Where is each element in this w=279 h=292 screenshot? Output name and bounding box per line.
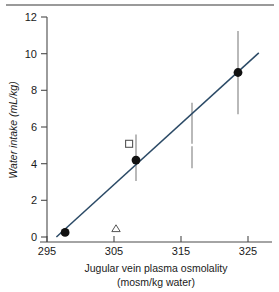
data-point-2	[132, 156, 141, 165]
y-tick-label-10: 10	[25, 48, 37, 60]
x-tick-label-295: 295	[38, 245, 56, 257]
open-square-marker	[126, 140, 133, 147]
y-tick-label-2: 2	[31, 194, 37, 206]
y-tick-label-4: 4	[31, 158, 37, 170]
y-tick-label-12: 12	[25, 11, 37, 23]
y-tick-label-6: 6	[31, 121, 37, 133]
data-point-3	[234, 68, 243, 77]
x-axis-ticks	[47, 236, 248, 242]
y-tick-label-8: 8	[31, 84, 37, 96]
scatter-plot: 12 10 8 6 4 2 0 295 305 315 325 Water in…	[0, 0, 279, 292]
x-axis-units: (mosm/kg water)	[117, 276, 195, 288]
error-bars-main	[136, 31, 238, 181]
x-tick-label-315: 315	[172, 245, 190, 257]
regression-line	[56, 53, 258, 237]
y-axis-title: Water intake (mL/kg)	[7, 81, 19, 178]
data-point-1	[61, 228, 70, 237]
x-axis-title: Jugular vein plasma osmolality	[85, 262, 229, 274]
y-tick-label-0: 0	[31, 231, 37, 243]
x-tick-label-325: 325	[239, 245, 257, 257]
y-axis-ticks	[41, 17, 47, 237]
figure-container: 12 10 8 6 4 2 0 295 305 315 325 Water in…	[0, 0, 279, 292]
open-triangle-marker	[112, 225, 120, 232]
y-tick-labels: 12 10 8 6 4 2 0	[25, 11, 37, 243]
x-tick-labels: 295 305 315 325	[38, 245, 257, 257]
x-tick-label-305: 305	[105, 245, 123, 257]
